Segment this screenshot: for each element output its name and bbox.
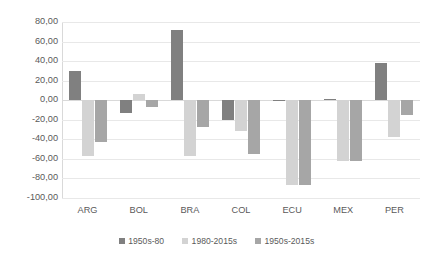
bar[interactable] — [69, 71, 81, 100]
bar[interactable] — [146, 100, 158, 107]
bar-group-mex — [318, 22, 369, 198]
legend-item[interactable]: 1950s-80 — [119, 236, 164, 246]
y-axis-tick-label: 20,00 — [2, 76, 58, 85]
bar-group-bra — [164, 22, 215, 198]
bar-group-arg — [62, 22, 113, 198]
bar[interactable] — [388, 100, 400, 137]
bar-slot — [95, 22, 107, 198]
y-axis-tick-label: 60,00 — [2, 37, 58, 46]
x-axis-tick-label-ecu: ECU — [267, 202, 318, 218]
y-axis-labels: 80,0060,0040,0020,000,00-20,00-40,00-60,… — [0, 22, 58, 198]
bar[interactable] — [184, 100, 196, 156]
bar-slot — [133, 22, 145, 198]
bar[interactable] — [235, 100, 247, 130]
y-axis-tick-label: -100,00 — [2, 193, 58, 202]
y-axis-tick-label: -80,00 — [2, 173, 58, 182]
bars — [369, 22, 420, 198]
x-axis-tick-label-mex: MEX — [318, 202, 369, 218]
bar-slot — [197, 22, 209, 198]
bar[interactable] — [286, 100, 298, 185]
bar-slot — [388, 22, 400, 198]
bar-slot — [324, 22, 336, 198]
gridline — [62, 198, 420, 199]
bar-groups — [62, 22, 420, 198]
bar[interactable] — [248, 100, 260, 154]
bar-slot — [299, 22, 311, 198]
bar[interactable] — [82, 100, 94, 156]
bar[interactable] — [401, 100, 413, 115]
bar-slot — [337, 22, 349, 198]
bar[interactable] — [375, 63, 387, 100]
bar-group-per — [369, 22, 420, 198]
x-axis-labels: ARGBOLBRACOLECUMEXPER — [62, 202, 420, 218]
bars — [267, 22, 318, 198]
bar-slot — [235, 22, 247, 198]
bar-slot — [222, 22, 234, 198]
bar-slot — [146, 22, 158, 198]
bar-chart: 80,0060,0040,0020,000,00-20,00-40,00-60,… — [0, 0, 433, 260]
legend-swatch-icon — [119, 238, 125, 244]
x-axis-tick-label-bra: BRA — [164, 202, 215, 218]
bar-slot — [273, 22, 285, 198]
legend-item[interactable]: 1980-2015s — [182, 236, 237, 246]
bar[interactable] — [350, 100, 362, 161]
plot-area — [62, 22, 420, 198]
bar-group-col — [215, 22, 266, 198]
bars — [113, 22, 164, 198]
x-axis-tick-label-bol: BOL — [113, 202, 164, 218]
bar-slot — [171, 22, 183, 198]
y-axis-tick-label: 0,00 — [2, 95, 58, 104]
bars — [62, 22, 113, 198]
bar-slot — [120, 22, 132, 198]
bar[interactable] — [324, 99, 336, 100]
x-axis-tick-label-arg: ARG — [62, 202, 113, 218]
bars — [164, 22, 215, 198]
bar-slot — [69, 22, 81, 198]
chart-legend: 1950s-801980-2015s1950s-2015s — [0, 236, 433, 246]
bar-slot — [401, 22, 413, 198]
bar-slot — [286, 22, 298, 198]
legend-label: 1980-2015s — [192, 236, 237, 246]
x-axis-tick-label-col: COL — [215, 202, 266, 218]
bar-group-ecu — [267, 22, 318, 198]
bar-group-bol — [113, 22, 164, 198]
y-axis-tick-label: 40,00 — [2, 56, 58, 65]
bar[interactable] — [120, 100, 132, 113]
bar[interactable] — [337, 100, 349, 161]
bar[interactable] — [222, 100, 234, 120]
bar[interactable] — [95, 100, 107, 142]
bar[interactable] — [133, 94, 145, 100]
y-axis-tick-label: -40,00 — [2, 134, 58, 143]
y-axis-tick-label: -60,00 — [2, 154, 58, 163]
x-axis-tick-label-per: PER — [369, 202, 420, 218]
bar-slot — [82, 22, 94, 198]
y-axis-tick-label: 80,00 — [2, 17, 58, 26]
bar[interactable] — [171, 30, 183, 100]
bar[interactable] — [273, 100, 285, 101]
y-axis-tick-label: -20,00 — [2, 115, 58, 124]
legend-swatch-icon — [182, 238, 188, 244]
bar-slot — [375, 22, 387, 198]
bars — [318, 22, 369, 198]
bar-slot — [350, 22, 362, 198]
bar[interactable] — [197, 100, 209, 126]
bars — [215, 22, 266, 198]
bar[interactable] — [299, 100, 311, 185]
bar-slot — [248, 22, 260, 198]
legend-swatch-icon — [255, 238, 261, 244]
legend-item[interactable]: 1950s-2015s — [255, 236, 314, 246]
legend-label: 1950s-2015s — [265, 236, 315, 246]
bar-slot — [184, 22, 196, 198]
legend-label: 1950s-80 — [128, 236, 164, 246]
